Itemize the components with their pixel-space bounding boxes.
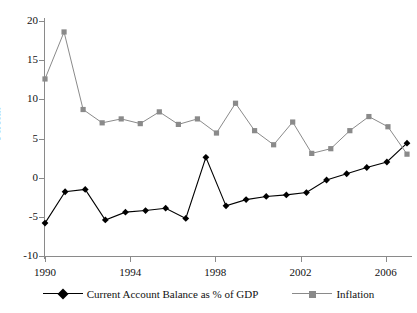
data-point-diamond bbox=[263, 193, 270, 200]
data-point-square bbox=[157, 109, 162, 114]
series-line bbox=[45, 32, 407, 154]
data-point-diamond bbox=[102, 217, 109, 224]
data-point-square bbox=[176, 122, 181, 127]
series-inflation bbox=[42, 29, 409, 156]
chart-legend: Current Account Balance as % of GDP Infl… bbox=[0, 288, 417, 300]
series-plot-layer bbox=[0, 0, 417, 313]
data-point-diamond bbox=[162, 205, 169, 212]
data-point-square bbox=[385, 124, 390, 129]
chart-figure: Percent 20151050-5-10 199019941998200220… bbox=[0, 0, 417, 313]
data-point-diamond bbox=[62, 188, 69, 195]
data-point-square bbox=[347, 128, 352, 133]
data-point-diamond bbox=[182, 215, 189, 222]
data-point-diamond bbox=[283, 192, 290, 199]
data-point-square bbox=[42, 76, 47, 81]
legend-label-current-account: Current Account Balance as % of GDP bbox=[87, 288, 259, 300]
data-point-diamond bbox=[142, 207, 149, 214]
data-point-square bbox=[100, 120, 105, 125]
data-point-square bbox=[233, 101, 238, 106]
data-point-diamond bbox=[243, 196, 250, 203]
data-point-square bbox=[214, 130, 219, 135]
data-point-square bbox=[290, 119, 295, 124]
data-point-diamond bbox=[202, 154, 209, 161]
data-point-square bbox=[328, 146, 333, 151]
data-point-square bbox=[138, 121, 143, 126]
data-point-diamond bbox=[323, 177, 330, 184]
data-point-diamond bbox=[122, 209, 129, 216]
data-point-square bbox=[195, 116, 200, 121]
series-current-account bbox=[42, 140, 411, 227]
data-point-diamond bbox=[343, 170, 350, 177]
data-point-square bbox=[309, 151, 314, 156]
legend-item-current-account[interactable]: Current Account Balance as % of GDP bbox=[43, 288, 259, 300]
data-point-diamond bbox=[303, 189, 310, 196]
data-point-square bbox=[366, 114, 371, 119]
legend-label-inflation: Inflation bbox=[336, 288, 374, 300]
data-point-square bbox=[61, 29, 66, 34]
data-point-diamond bbox=[82, 186, 89, 193]
data-point-square bbox=[252, 128, 257, 133]
data-point-square bbox=[404, 152, 409, 157]
data-point-diamond bbox=[42, 220, 49, 227]
series-line bbox=[45, 143, 407, 223]
legend-item-inflation[interactable]: Inflation bbox=[292, 288, 374, 300]
data-point-square bbox=[271, 142, 276, 147]
legend-key-diamond bbox=[43, 289, 83, 299]
data-point-diamond bbox=[363, 164, 370, 171]
data-point-square bbox=[119, 116, 124, 121]
data-point-diamond bbox=[223, 202, 230, 209]
legend-key-square bbox=[292, 289, 332, 299]
data-point-square bbox=[81, 107, 86, 112]
